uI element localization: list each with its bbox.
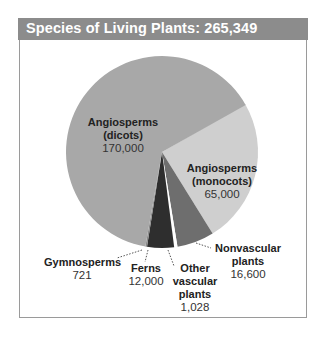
label-other-vascular: Other vascular plants 1,028 [172, 262, 218, 314]
label-monocots: Angiosperms (monocots) 65,000 [182, 162, 262, 201]
leader-nonvascular [196, 243, 211, 248]
label-nonvascular: Nonvascular plants 16,600 [212, 242, 284, 281]
label-dicots: Angiosperms (dicots) 170,000 [83, 116, 163, 155]
pie-chart [0, 0, 322, 340]
label-ferns: Ferns 12,000 [128, 262, 164, 288]
label-gymnosperms: Gymnosperms 721 [44, 256, 120, 282]
leader-ferns [145, 250, 148, 262]
